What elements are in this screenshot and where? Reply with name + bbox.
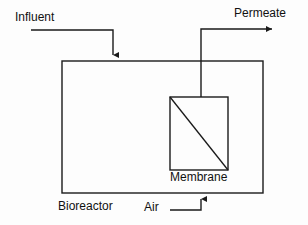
- bioreactor-label: Bioreactor: [58, 200, 113, 212]
- permeate-flow-line: [201, 29, 272, 97]
- bioreactor-tank: [62, 61, 263, 193]
- membrane-label: Membrane: [170, 171, 227, 183]
- influent-flow-line: [31, 30, 113, 55]
- permeate-label: Permeate: [234, 7, 286, 19]
- schematic-drawing: [0, 0, 308, 225]
- influent-label: Influent: [15, 11, 54, 23]
- air-flow-line: [170, 199, 201, 210]
- mbr-diagram: Influent Permeate Membrane Bioreactor Ai…: [0, 0, 308, 225]
- membrane-diagonal-line: [170, 97, 228, 170]
- air-label: Air: [144, 201, 159, 213]
